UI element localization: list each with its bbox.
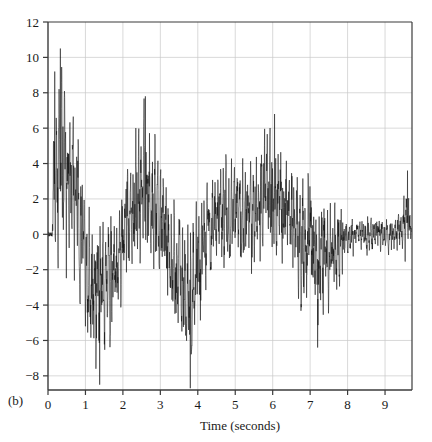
- y-tick-label: −8: [25, 368, 39, 383]
- x-tick-label: 1: [82, 397, 89, 412]
- y-tick-label: −2: [25, 262, 39, 277]
- x-tick-label: 5: [232, 397, 239, 412]
- y-tick-label: 8: [33, 85, 40, 100]
- y-tick-label: 4: [33, 156, 40, 171]
- x-tick-label: 2: [120, 397, 127, 412]
- figure-panel-b: 0123456789 −8−6−4−2024681012 Time (secon…: [0, 0, 432, 442]
- x-tick-label: 0: [45, 397, 52, 412]
- x-axis-title: Time (seconds): [200, 418, 280, 433]
- y-tick-label: 2: [33, 191, 40, 206]
- y-tick-label: 6: [33, 121, 40, 136]
- x-tick-label: 7: [307, 397, 314, 412]
- panel-label: (b): [8, 393, 23, 408]
- x-tick-label: 4: [195, 397, 202, 412]
- y-tick-label: −6: [25, 333, 39, 348]
- x-tick-label: 9: [382, 397, 389, 412]
- y-tick-label: 10: [26, 50, 39, 65]
- seismogram-chart: 0123456789 −8−6−4−2024681012 Time (secon…: [0, 0, 432, 442]
- x-tick-label: 3: [157, 397, 164, 412]
- x-tick-label: 8: [344, 397, 351, 412]
- y-tick-label: −4: [25, 298, 39, 313]
- x-tick-label: 6: [269, 397, 276, 412]
- y-tick-label: 12: [26, 15, 39, 30]
- y-tick-label: 0: [33, 227, 40, 242]
